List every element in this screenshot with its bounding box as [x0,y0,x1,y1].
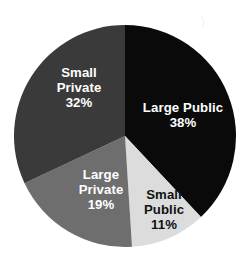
pie-chart: Large Public 38% Small Public 11% Large … [0,0,247,262]
scan-artifact-speck [202,16,204,28]
pie-chart-canvas [0,0,247,262]
